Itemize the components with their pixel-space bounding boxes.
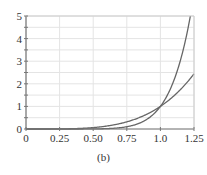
y-tick-label: 5: [17, 10, 23, 22]
x-tick-label: 1.25: [184, 132, 204, 144]
x-tick-label: 1.0: [154, 132, 168, 144]
x-tick-label: 0.75: [117, 132, 137, 144]
grid-lines: [26, 16, 194, 129]
x-tick-label: 0: [23, 132, 29, 144]
curve-x4: [26, 74, 194, 129]
chart: 00.250.500.751.01.25 012345: [0, 0, 207, 145]
y-axis-tick-labels: 012345: [17, 10, 23, 135]
x-tick-label: 0.50: [84, 132, 104, 144]
x-tick-label: 0.25: [50, 132, 70, 144]
y-tick-label: 0: [17, 123, 23, 135]
axes: [24, 16, 194, 131]
y-tick-label: 2: [17, 78, 23, 90]
y-tick-label: 3: [17, 55, 23, 67]
figure-caption: (b): [0, 151, 207, 163]
y-tick-label: 1: [17, 100, 23, 112]
x-axis-tick-labels: 00.250.500.751.01.25: [23, 132, 204, 144]
y-tick-label: 4: [17, 33, 23, 45]
